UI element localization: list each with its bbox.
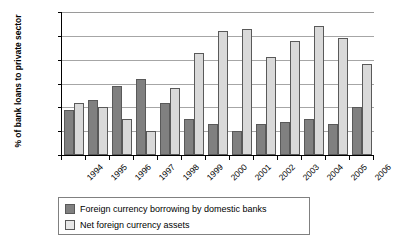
bar — [98, 107, 108, 155]
x-tick-label: 2001 — [253, 162, 273, 182]
bar — [304, 119, 314, 155]
bar — [314, 26, 324, 155]
bar — [122, 119, 132, 155]
x-tick-label: 1998 — [181, 162, 201, 182]
x-tick-mark — [373, 155, 374, 160]
bar — [194, 53, 204, 155]
bar — [218, 31, 228, 155]
bar-group — [158, 12, 182, 155]
bar-group — [254, 12, 278, 155]
bar-group — [134, 12, 158, 155]
legend-label: Net foreign currency assets — [80, 220, 190, 230]
bar — [146, 131, 156, 155]
legend-item: Foreign currency borrowing by domestic b… — [65, 202, 309, 216]
bar-group — [350, 12, 374, 155]
bar — [74, 103, 84, 155]
bar — [280, 122, 290, 155]
bar-group — [206, 12, 230, 155]
x-tick-label: 1999 — [205, 162, 225, 182]
bar-group — [230, 12, 254, 155]
bars-layer — [62, 12, 374, 155]
x-tick-mark — [229, 155, 230, 160]
bar — [88, 100, 98, 155]
bar — [232, 131, 242, 155]
x-tick-mark — [325, 155, 326, 160]
bar — [136, 79, 146, 155]
x-tick-mark — [61, 155, 62, 160]
legend-item: Net foreign currency assets — [65, 218, 309, 232]
x-tick-mark — [205, 155, 206, 160]
bar — [184, 119, 194, 155]
bar — [64, 110, 74, 155]
bar — [338, 38, 348, 155]
bar — [328, 124, 338, 155]
x-tick-label: 2003 — [301, 162, 321, 182]
bar — [208, 124, 218, 155]
bar-group — [326, 12, 350, 155]
bar — [112, 86, 122, 155]
legend-swatch-icon — [65, 204, 75, 214]
x-tick-mark — [85, 155, 86, 160]
x-tick-label: 2002 — [277, 162, 297, 182]
bar-group — [182, 12, 206, 155]
x-tick-mark — [253, 155, 254, 160]
x-tick-mark — [277, 155, 278, 160]
x-tick-label: 1994 — [85, 162, 105, 182]
bar — [352, 107, 362, 155]
x-tick-label: 2006 — [373, 162, 393, 182]
bar — [170, 88, 180, 155]
legend-label: Foreign currency borrowing by domestic b… — [80, 204, 267, 214]
x-tick-label: 2005 — [349, 162, 369, 182]
bar — [362, 64, 372, 155]
bar — [160, 103, 170, 155]
y-axis-title: % of bank loans to private sector — [13, 1, 23, 161]
x-tick-label: 2004 — [325, 162, 345, 182]
bar-group — [86, 12, 110, 155]
x-tick-label: 1997 — [157, 162, 177, 182]
bar — [290, 41, 300, 155]
plot-area: 0%5%10%15%20%25%30% — [61, 12, 374, 156]
x-tick-mark — [133, 155, 134, 160]
bar — [242, 29, 252, 155]
x-tick-label: 1995 — [109, 162, 129, 182]
x-axis: 1994199519961997199819992000200120022003… — [61, 155, 374, 195]
x-tick-label: 2000 — [229, 162, 249, 182]
chart-legend: Foreign currency borrowing by domestic b… — [58, 197, 310, 235]
x-tick-mark — [157, 155, 158, 160]
bar — [266, 57, 276, 155]
x-tick-mark — [349, 155, 350, 160]
x-tick-mark — [301, 155, 302, 160]
x-tick-mark — [181, 155, 182, 160]
legend-swatch-icon — [65, 220, 75, 230]
bar — [256, 124, 266, 155]
x-tick-label: 1996 — [133, 162, 153, 182]
bar-group — [110, 12, 134, 155]
bar-group — [302, 12, 326, 155]
bar-group — [278, 12, 302, 155]
bar-group — [62, 12, 86, 155]
x-tick-mark — [109, 155, 110, 160]
